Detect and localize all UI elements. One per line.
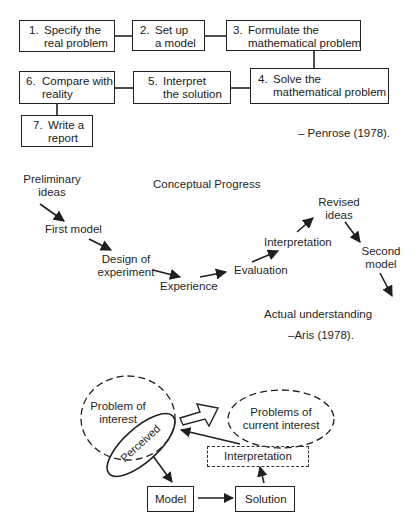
interpretation-label: Interpretation (207, 450, 309, 463)
node-experience: Experience (160, 280, 218, 293)
cycle-shapes (81, 376, 334, 486)
solution-box: Solution (235, 486, 295, 512)
node-interpretation: Interpretation (264, 236, 332, 249)
step-3-box: 3. Formulate the mathematical problem (226, 20, 361, 51)
step-1-box: 1. Specify the real problem (19, 20, 115, 52)
step-7-box: 7. Write a report (21, 115, 93, 147)
problems-current-interest-label: Problems of current interest (236, 406, 326, 431)
step-2-box: 2. Set up a model (132, 20, 205, 51)
node-design-of-experiment: Design of experiment (95, 253, 157, 278)
aris-citation: –Aris (1978). (288, 329, 354, 342)
problem-of-interest-label: Problem of interest (88, 400, 148, 425)
node-first-model: First model (45, 223, 102, 236)
penrose-citation: – Penrose (1978). (298, 127, 390, 140)
node-evaluation: Evaluation (234, 264, 288, 277)
node-second-model: Second model (356, 245, 406, 270)
node-preliminary-ideas: Preliminary ideas (22, 173, 82, 198)
hollow-arrow-icon (180, 404, 218, 426)
step-6-box: 6. Compare with reality (19, 71, 115, 104)
actual-understanding-label: Actual understanding (264, 308, 372, 321)
model-box: Model (147, 486, 194, 512)
step-5-box: 5. Interpret the solution (133, 71, 231, 104)
node-revised-ideas: Revised ideas (314, 196, 364, 221)
aris-title: Conceptual Progress (153, 178, 260, 191)
step-4-box: 4. Solve the mathematical problem (250, 68, 389, 104)
